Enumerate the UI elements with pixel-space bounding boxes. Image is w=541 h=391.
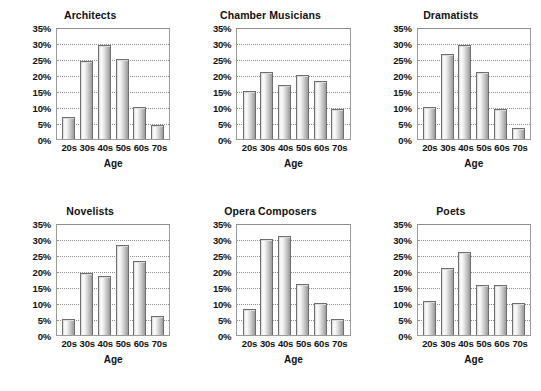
y-axis: 35%30%25%20%15%10%5%0% [381,224,415,336]
x-axis-tick-label: 40s [458,142,471,153]
x-axis-title: Age [236,354,350,365]
x-axis-tick-label: 60s [134,142,147,153]
x-axis-tick-label: 40s [98,142,111,153]
y-axis-tick-label: 15% [213,87,231,98]
plot-wrapper: 35%30%25%20%15%10%5%0%20s30s40s50s60s70s… [381,28,531,150]
bar [494,109,507,139]
x-axis-tick-label: 50s [296,142,309,153]
y-axis-tick-label: 0% [398,331,411,342]
y-axis-tick-label: 5% [218,119,231,130]
x-axis-tick-label: 40s [458,338,471,349]
y-axis-tick-label: 5% [38,119,51,130]
x-axis-tick-label: 30s [80,338,93,349]
x-axis-tick-labels: 20s30s40s50s60s70s [417,142,531,153]
y-axis-tick-label: 0% [398,135,411,146]
x-axis-tick-labels: 20s30s40s50s60s70s [417,338,531,349]
bar [62,319,75,335]
x-axis-tick-labels: 20s30s40s50s60s70s [56,338,170,349]
y-axis-tick-label: 10% [33,299,51,310]
x-axis-tick-label: 60s [314,338,327,349]
plot-area [236,28,350,140]
x-axis-tick-label: 40s [278,338,291,349]
bar [458,252,471,335]
y-axis-tick-label: 5% [398,119,411,130]
bar [80,61,93,139]
plot-area [417,28,531,140]
y-axis-tick-label: 25% [213,251,231,262]
x-axis-tick-label: 60s [314,142,327,153]
chart-panel: Poets35%30%25%20%15%10%5%0%20s30s40s50s6… [361,196,541,391]
y-axis-tick-label: 15% [33,283,51,294]
bar [133,261,146,335]
y-axis-tick-label: 0% [218,135,231,146]
y-axis-tick-label: 15% [393,283,411,294]
y-axis: 35%30%25%20%15%10%5%0% [200,28,234,140]
bar [494,285,507,335]
plot-area [56,28,170,140]
bar [314,81,327,139]
bar [80,273,93,335]
bar [476,285,489,335]
y-axis-tick-label: 10% [213,299,231,310]
y-axis-tick-label: 0% [38,135,51,146]
x-axis-title: Age [56,354,170,365]
x-axis-tick-label: 50s [476,338,489,349]
bar [331,319,344,335]
x-axis-tick-label: 20s [422,142,435,153]
bar [151,316,164,335]
y-axis-tick-label: 25% [33,251,51,262]
y-axis-tick-label: 20% [213,71,231,82]
bar-series [237,29,349,139]
x-axis-tick-label: 60s [134,338,147,349]
bar [151,125,164,139]
x-axis-tick-label: 30s [440,142,453,153]
panel-title: Dramatists [361,9,541,21]
plot-area [417,224,531,336]
bar [278,85,291,139]
x-axis-tick-label: 60s [494,142,507,153]
bar [98,45,111,139]
bar [441,54,454,139]
plot-wrapper: 35%30%25%20%15%10%5%0%20s30s40s50s60s70s… [381,224,531,346]
bar [331,109,344,139]
x-axis-tick-label: 20s [62,338,75,349]
y-axis-tick-label: 35% [213,23,231,34]
bar-series [418,29,530,139]
y-axis-tick-label: 35% [393,23,411,34]
y-axis-tick-label: 10% [393,299,411,310]
bar [441,268,454,335]
y-axis: 35%30%25%20%15%10%5%0% [20,224,54,336]
y-axis-tick-label: 20% [393,267,411,278]
bar [260,72,273,139]
y-axis-tick-label: 15% [33,87,51,98]
y-axis-tick-label: 20% [213,267,231,278]
x-axis-title: Age [56,158,170,169]
plot-area [236,224,350,336]
chart-panel: Architects35%30%25%20%15%10%5%0%20s30s40… [0,0,180,196]
bar [476,72,489,139]
x-axis-tick-labels: 20s30s40s50s60s70s [236,338,350,349]
chart-panel: Dramatists35%30%25%20%15%10%5%0%20s30s40… [361,0,541,196]
y-axis-tick-label: 5% [218,315,231,326]
bar [512,303,525,335]
plot-wrapper: 35%30%25%20%15%10%5%0%20s30s40s50s60s70s… [200,224,350,346]
bar [512,128,525,139]
x-axis-tick-labels: 20s30s40s50s60s70s [56,142,170,153]
panel-title: Poets [361,205,541,217]
y-axis-tick-label: 20% [393,71,411,82]
x-axis-tick-label: 30s [260,338,273,349]
x-axis-tick-labels: 20s30s40s50s60s70s [236,142,350,153]
y-axis-tick-label: 5% [398,315,411,326]
bar [314,303,327,335]
bar [62,117,75,139]
bar-series [418,225,530,335]
panel-title: Opera Composers [180,205,360,217]
y-axis-tick-label: 10% [33,103,51,114]
bar-series [57,29,169,139]
x-axis-tick-label: 20s [422,338,435,349]
bar-series [57,225,169,335]
bar [296,75,309,139]
y-axis-tick-label: 30% [213,39,231,50]
y-axis-tick-label: 35% [393,219,411,230]
chart-panel: Opera Composers35%30%25%20%15%10%5%0%20s… [180,196,360,391]
